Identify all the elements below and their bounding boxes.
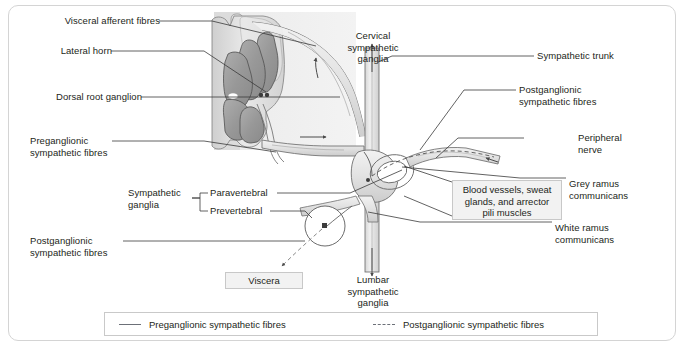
label-cervical-sympathetic-ganglia: Cervical sympathetic ganglia	[337, 30, 409, 65]
label-dorsal-root-ganglion: Dorsal root ganglion	[30, 91, 142, 103]
label-white-ramus-communicans: White ramus communicans	[555, 222, 649, 245]
legend-swatch-postganglionic	[373, 324, 395, 325]
label-postganglionic-sympathetic-fibres-right: Postganglionic sympathetic fibres	[519, 84, 647, 107]
legend-label-postganglionic: Postganglionic sympathetic fibres	[403, 319, 544, 330]
label-sympathetic-trunk: Sympathetic trunk	[537, 50, 657, 62]
label-sympathetic-ganglia: Sympathetic ganglia	[128, 187, 194, 210]
lateral-horn-neuron	[265, 93, 269, 97]
prevertebral-ganglion	[282, 206, 352, 266]
label-visceral-afferent-fibres: Visceral afferent fibres	[30, 15, 160, 27]
label-lateral-horn: Lateral horn	[30, 45, 112, 57]
lateral-horn-neuron	[259, 93, 263, 97]
label-lumbar-sympathetic-ganglia: Lumbar sympathetic ganglia	[337, 274, 409, 309]
label-prevertebral: Prevertebral	[210, 205, 276, 217]
label-postganglionic-sympathetic-fibres-left: Postganglionic sympathetic fibres	[30, 235, 142, 258]
central-canal	[228, 93, 238, 99]
legend-swatch-preganglionic	[119, 324, 141, 325]
label-viscera-box: Viscera	[225, 272, 303, 289]
label-grey-ramus-communicans: Grey ramus communicans	[569, 178, 661, 201]
label-peripheral-nerve: Peripheral nerve	[578, 132, 658, 155]
label-target-organs-box: Blood vessels, sweat glands, and arrecto…	[452, 180, 562, 220]
legend-label-preganglionic: Preganglionic sympathetic fibres	[149, 319, 286, 330]
prevertebral-neuron	[322, 223, 327, 228]
ganglion-neuron	[366, 178, 370, 182]
viscera-fibre-path	[282, 229, 322, 266]
figure-root: Visceral afferent fibres Lateral horn Do…	[0, 0, 687, 360]
legend: Preganglionic sympathetic fibres Postgan…	[104, 312, 598, 336]
label-preganglionic-sympathetic-fibres-left: Preganglionic sympathetic fibres	[30, 135, 140, 158]
label-paravertebral: Paravertebral	[210, 187, 280, 199]
